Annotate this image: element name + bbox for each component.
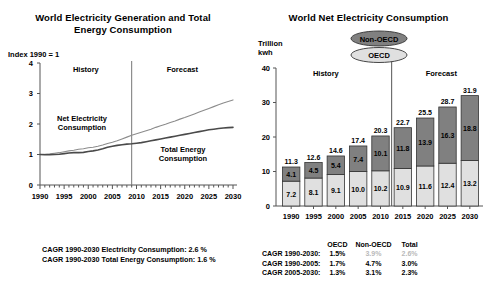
right-x-tick-label: 2030 bbox=[461, 212, 478, 221]
left-y-tick-label: 3 bbox=[29, 89, 33, 98]
cagr-value-oecd: 1.3% bbox=[320, 268, 354, 278]
bar-total-label: 22.7 bbox=[396, 119, 410, 126]
bar-value-non-oecd: 18.8 bbox=[463, 125, 477, 132]
bar-value-oecd: 12.4 bbox=[441, 182, 455, 189]
right-x-tick-label: 2015 bbox=[394, 212, 411, 221]
cagr-value-non-oecd: 3.9% bbox=[354, 249, 392, 259]
bar-value-non-oecd: 7.4 bbox=[353, 156, 363, 163]
left-band-history-label: History bbox=[73, 65, 100, 74]
left-series-1-label: Consumption bbox=[58, 123, 107, 132]
bar-total-label: 25.5 bbox=[418, 109, 432, 116]
bar-value-oecd: 10.2 bbox=[374, 185, 388, 192]
left-series-2-label: Total Energy bbox=[161, 145, 207, 154]
bar-value-non-oecd: 11.8 bbox=[396, 145, 409, 152]
bar-value-oecd: 10.0 bbox=[351, 186, 365, 193]
bar-total-label: 14.6 bbox=[329, 147, 343, 154]
right-y-tick-label: 30 bbox=[262, 98, 270, 107]
right-chart-panel: World Net Electricity Consumption Trilli… bbox=[246, 0, 491, 286]
cagr-value-total: 3.0% bbox=[393, 259, 427, 269]
right-x-tick-label: 1995 bbox=[305, 212, 322, 221]
left-footnote-2: CAGR 1990-2030 Total Energy Consumption:… bbox=[42, 255, 216, 265]
cagr-row: CAGR 1990-2030:1.5%3.9%2.6% bbox=[262, 249, 427, 259]
left-x-tick-label: 2015 bbox=[152, 192, 169, 201]
right-band-history-label: History bbox=[313, 69, 340, 78]
bar-value-oecd: 10.9 bbox=[396, 184, 410, 191]
left-x-tick-label: 1995 bbox=[56, 192, 73, 201]
legend-pill-oecd-label: OECD bbox=[368, 51, 390, 60]
right-y-tick-label: 10 bbox=[262, 167, 270, 176]
cagr-row-label: CAGR 1990-2005: bbox=[262, 259, 320, 269]
left-x-tick-label: 1990 bbox=[32, 192, 49, 201]
bar-total-label: 11.3 bbox=[285, 158, 298, 165]
bar-value-non-oecd: 5.4 bbox=[331, 162, 341, 169]
bar-value-non-oecd: 10.1 bbox=[374, 150, 388, 157]
right-x-tick-label: 2025 bbox=[439, 212, 456, 221]
bar-total-label: 20.3 bbox=[374, 127, 388, 134]
left-footnote-1: CAGR 1990-2030 Electricity Consumption: … bbox=[42, 245, 207, 255]
bar-value-non-oecd: 13.9 bbox=[418, 139, 432, 146]
bar-value-non-oecd: 16.3 bbox=[441, 132, 455, 139]
left-x-tick-label: 2005 bbox=[104, 192, 121, 201]
left-x-tick-label: 2030 bbox=[225, 192, 242, 201]
right-y-tick-label: 20 bbox=[262, 133, 270, 142]
cagr-value-oecd: 1.5% bbox=[320, 249, 354, 259]
left-band-forecast-label: Forecast bbox=[167, 65, 199, 74]
right-x-tick-label: 2005 bbox=[350, 212, 367, 221]
left-y-tick-label: 0 bbox=[29, 181, 33, 190]
cagr-value-non-oecd: 4.7% bbox=[354, 259, 392, 269]
cagr-value-non-oecd: 3.1% bbox=[354, 268, 392, 278]
left-x-tick-label: 2000 bbox=[80, 192, 97, 201]
left-y-tick-label: 4 bbox=[29, 59, 34, 68]
bar-total-label: 31.9 bbox=[463, 87, 477, 94]
cagr-value-oecd: 1.7% bbox=[320, 259, 354, 269]
bar-value-non-oecd: 4.5 bbox=[309, 167, 319, 174]
left-y-tick-label: 1 bbox=[29, 150, 33, 159]
left-x-tick-label: 2025 bbox=[201, 192, 218, 201]
cagr-row-label: CAGR 2005-2030: bbox=[262, 268, 320, 278]
bar-value-non-oecd: 4.1 bbox=[286, 171, 296, 178]
bar-value-oecd: 8.1 bbox=[309, 189, 319, 196]
cagr-row-label: CAGR 1990-2030: bbox=[262, 249, 320, 259]
cagr-value-total: 2.3% bbox=[393, 268, 427, 278]
bar-total-label: 12.6 bbox=[307, 154, 321, 161]
left-series-1-label: Net Electricity bbox=[57, 114, 108, 123]
left-y-tick-label: 2 bbox=[29, 120, 33, 129]
right-x-tick-label: 2000 bbox=[327, 212, 344, 221]
bar-value-oecd: 7.2 bbox=[286, 191, 296, 198]
cagr-row: CAGR 2005-2030:1.3%3.1%2.3% bbox=[262, 268, 427, 278]
bar-total-label: 28.7 bbox=[441, 98, 455, 105]
left-chart-svg: 0123419901995200020052010201520202025203… bbox=[0, 0, 246, 286]
left-x-tick-label: 2010 bbox=[128, 192, 145, 201]
right-x-tick-label: 2010 bbox=[372, 212, 389, 221]
right-band-forecast-label: Forecast bbox=[426, 69, 458, 78]
left-series-2-label: Consumption bbox=[159, 154, 208, 163]
right-y-tick-label: 0 bbox=[266, 202, 270, 211]
cagr-value-total: 2.6% bbox=[393, 249, 427, 259]
bar-value-oecd: 11.6 bbox=[419, 183, 432, 190]
cagr-header-row: OECD Non-OECD Total bbox=[262, 240, 427, 249]
legend-pill-non-oecd-label: Non-OECD bbox=[360, 35, 399, 44]
right-y-tick-label: 40 bbox=[262, 64, 270, 73]
cagr-header-oecd: OECD bbox=[320, 240, 354, 249]
bar-total-label: 17.4 bbox=[351, 137, 365, 144]
right-x-tick-label: 1990 bbox=[283, 212, 300, 221]
left-chart-panel: World Electricity Generation and Total E… bbox=[0, 0, 246, 286]
cagr-header-nonoecd: Non-OECD bbox=[354, 240, 392, 249]
cagr-table: OECD Non-OECD Total CAGR 1990-2030:1.5%3… bbox=[262, 240, 427, 278]
bar-value-oecd: 13.2 bbox=[463, 180, 477, 187]
cagr-header-blank bbox=[262, 240, 320, 249]
cagr-header-total: Total bbox=[393, 240, 427, 249]
cagr-row: CAGR 1990-2005:1.7%4.7%3.0% bbox=[262, 259, 427, 269]
bar-value-oecd: 9.1 bbox=[331, 187, 341, 194]
left-x-tick-label: 2020 bbox=[176, 192, 193, 201]
right-x-tick-label: 2020 bbox=[417, 212, 434, 221]
